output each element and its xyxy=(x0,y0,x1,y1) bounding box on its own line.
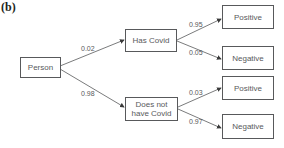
prob-has-covid-positive: 0.95 xyxy=(189,21,203,28)
edge-root-has-covid xyxy=(60,40,124,66)
prob-no-covid-positive: 0.03 xyxy=(189,89,203,96)
node-has-covid-negative: Negative xyxy=(222,46,274,70)
node-has-covid-positive: Positive xyxy=(222,5,274,29)
edge-root-no-covid xyxy=(60,69,124,107)
node-does-not-have-covid: Does not have Covid xyxy=(125,97,178,121)
prob-root-no-covid: 0.98 xyxy=(81,90,95,97)
node-person: Person xyxy=(20,57,61,78)
prob-has-covid-negative: 0.05 xyxy=(189,49,203,56)
prob-no-covid-negative: 0.97 xyxy=(189,118,203,125)
prob-root-has-covid: 0.02 xyxy=(81,45,95,52)
node-has-covid: Has Covid xyxy=(125,29,177,52)
node-no-covid-negative: Negative xyxy=(222,114,274,139)
node-no-covid-positive: Positive xyxy=(222,76,274,100)
